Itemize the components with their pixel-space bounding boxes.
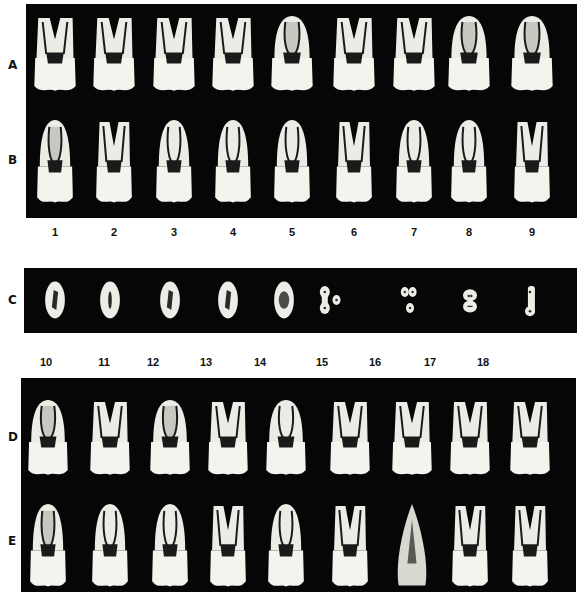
specimen-c-3 xyxy=(157,280,183,320)
row-label-a: A xyxy=(8,58,17,72)
specimen-d-5 xyxy=(265,398,307,478)
specimen-a-8 xyxy=(447,14,491,94)
specimen-e-7 xyxy=(393,502,431,590)
specimen-b-6 xyxy=(335,118,373,206)
column-number-4: 4 xyxy=(230,226,236,238)
specimen-d-1 xyxy=(27,398,69,478)
specimen-a-1 xyxy=(33,14,77,94)
specimen-e-6 xyxy=(331,502,369,590)
specimen-c-2 xyxy=(97,280,123,320)
specimen-c-7 xyxy=(397,280,423,320)
specimen-a-4 xyxy=(211,14,255,94)
specimen-a-3 xyxy=(152,14,196,94)
column-number-12: 12 xyxy=(147,356,159,368)
specimen-b-1 xyxy=(36,118,74,206)
specimen-b-4 xyxy=(214,118,252,206)
specimen-e-5 xyxy=(267,502,305,590)
specimen-d-2 xyxy=(89,398,131,478)
row-label-b: B xyxy=(8,153,17,167)
specimen-a-7 xyxy=(392,14,436,94)
specimen-c-1 xyxy=(42,280,68,320)
specimen-c-8 xyxy=(457,280,483,320)
column-number-10: 10 xyxy=(40,356,52,368)
specimen-c-6 xyxy=(317,280,343,320)
column-number-14: 14 xyxy=(254,356,266,368)
specimen-a-9 xyxy=(510,14,554,94)
column-number-2: 2 xyxy=(111,226,117,238)
column-number-8: 8 xyxy=(466,226,472,238)
column-number-1: 1 xyxy=(52,226,58,238)
specimen-a-2 xyxy=(92,14,136,94)
specimen-d-8 xyxy=(449,398,491,478)
column-number-3: 3 xyxy=(171,226,177,238)
specimen-a-5 xyxy=(270,14,314,94)
specimen-e-9 xyxy=(511,502,549,590)
specimen-e-2 xyxy=(91,502,129,590)
specimen-d-3 xyxy=(149,398,191,478)
row-label-e: E xyxy=(8,534,16,548)
column-number-5: 5 xyxy=(289,226,295,238)
column-number-6: 6 xyxy=(351,226,357,238)
specimen-d-6 xyxy=(329,398,371,478)
specimen-c-4 xyxy=(215,280,241,320)
row-label-c: C xyxy=(8,293,17,307)
specimen-d-4 xyxy=(207,398,249,478)
column-number-9: 9 xyxy=(529,226,535,238)
column-number-13: 13 xyxy=(200,356,212,368)
specimen-e-3 xyxy=(151,502,189,590)
specimen-b-9 xyxy=(513,118,551,206)
specimen-c-9 xyxy=(517,280,543,320)
column-number-18: 18 xyxy=(477,356,489,368)
specimen-b-7 xyxy=(395,118,433,206)
specimen-b-5 xyxy=(273,118,311,206)
specimen-e-1 xyxy=(29,502,67,590)
specimen-d-9 xyxy=(509,398,551,478)
column-number-15: 15 xyxy=(316,356,328,368)
column-number-17: 17 xyxy=(424,356,436,368)
specimen-b-8 xyxy=(450,118,488,206)
specimen-d-7 xyxy=(391,398,433,478)
column-number-7: 7 xyxy=(411,226,417,238)
specimen-e-4 xyxy=(209,502,247,590)
row-label-d: D xyxy=(8,430,18,444)
column-number-16: 16 xyxy=(369,356,381,368)
column-number-11: 11 xyxy=(98,356,110,368)
specimen-b-2 xyxy=(95,118,133,206)
specimen-e-8 xyxy=(451,502,489,590)
specimen-a-6 xyxy=(332,14,376,94)
specimen-b-3 xyxy=(155,118,193,206)
specimen-c-5 xyxy=(271,280,297,320)
